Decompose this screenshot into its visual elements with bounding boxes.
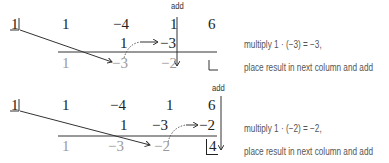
middle-1-1: −3 [160, 36, 176, 51]
middle-2-1: −3 [152, 118, 168, 133]
remainder-2: 4 [206, 139, 218, 155]
bottom-1-2: −2 [161, 56, 177, 71]
bottom-2-0: 1 [62, 139, 70, 154]
middle-2-0: 1 [120, 118, 128, 133]
middle-1-0: 1 [120, 36, 128, 51]
coef-2-2: 1 [166, 98, 174, 113]
multiply-arrow-2 [20, 111, 150, 145]
coef-2-1: −4 [110, 98, 126, 113]
bottom-1-1: −3 [112, 56, 128, 71]
coef-1-3: 6 [208, 17, 216, 32]
note-2-line1: multiply 1 · (−2) = −2, [244, 124, 322, 134]
coef-2-3: 6 [208, 98, 216, 113]
note-1-line1: multiply 1 · (−3) = −3, [244, 40, 322, 50]
dotted-curve-2 [168, 125, 186, 142]
bottom-2-1: −3 [108, 139, 124, 154]
bottom-2-2: −2 [154, 139, 170, 154]
note-2-line2: place result in next column and add [244, 147, 373, 157]
divisor-2: 1 [11, 98, 19, 113]
middle-2-2: −2 [199, 118, 215, 133]
add-label-1: add [171, 2, 184, 11]
divisor-1: 1 [11, 17, 19, 32]
coef-1-1: −4 [113, 17, 129, 32]
coef-1-2: 1 [170, 17, 178, 32]
bottom-1-0: 1 [62, 56, 70, 71]
add-label-2: add [212, 84, 225, 93]
coef-1-0: 1 [62, 17, 70, 32]
note-1-line2: place result in next column and add [244, 63, 373, 73]
coef-2-0: 1 [62, 98, 70, 113]
diagram-lines [0, 0, 389, 163]
